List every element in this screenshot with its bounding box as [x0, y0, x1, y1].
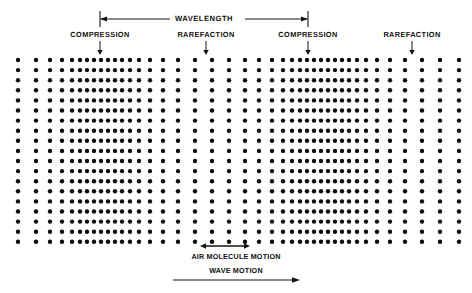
air-molecule-dot — [113, 199, 117, 203]
air-molecule-dot — [375, 129, 379, 133]
air-molecule-dot — [78, 139, 82, 143]
air-molecule-dot — [290, 230, 294, 234]
air-molecule-dot — [333, 179, 337, 183]
air-molecule-dot — [281, 88, 285, 92]
air-molecule-dot — [403, 78, 407, 82]
air-molecule-dot — [305, 219, 309, 223]
air-molecule-dot — [305, 169, 309, 173]
air-molecule-dot — [298, 199, 302, 203]
air-molecule-dot — [137, 78, 141, 82]
air-molecule-dot — [78, 230, 82, 234]
air-molecule-dot — [257, 179, 261, 183]
air-molecule-dot — [137, 129, 141, 133]
air-molecule-dot — [16, 230, 20, 234]
air-molecule-dot — [243, 149, 247, 153]
air-molecule-dot-field — [16, 58, 461, 244]
air-molecule-dot — [137, 159, 141, 163]
air-molecule-dot — [312, 129, 316, 133]
air-molecule-dot — [270, 149, 274, 153]
air-molecule-dot — [60, 58, 64, 62]
air-molecule-dot — [355, 98, 359, 102]
air-molecule-dot — [312, 199, 316, 203]
pointer-arrowhead-rarefaction-1 — [203, 50, 208, 55]
air-molecule-dot — [193, 129, 197, 133]
air-molecule-dot — [326, 240, 330, 244]
air-molecule-dot — [347, 230, 351, 234]
air-molecule-dot — [99, 179, 103, 183]
air-molecule-dot — [438, 240, 442, 244]
air-molecule-dot — [148, 118, 152, 122]
air-molecule-dot — [281, 179, 285, 183]
air-molecule-dot — [438, 199, 442, 203]
air-molecule-dot — [106, 230, 110, 234]
air-molecule-dot — [298, 219, 302, 223]
air-molecule-dot — [60, 118, 64, 122]
air-molecule-dot — [120, 58, 124, 62]
air-molecule-dot — [457, 118, 461, 122]
air-molecule-dot — [420, 199, 424, 203]
air-molecule-dot — [16, 199, 20, 203]
air-molecule-dot — [48, 88, 52, 92]
air-molecule-dot — [137, 88, 141, 92]
air-molecule-dot — [85, 68, 89, 72]
air-molecule-dot — [243, 129, 247, 133]
air-molecule-dot — [78, 240, 82, 244]
air-molecule-dot — [319, 139, 323, 143]
air-molecule-dot — [176, 98, 180, 102]
motion-label-air-molecule-motion: AIR MOLECULE MOTION — [191, 252, 280, 261]
air-molecule-dot — [438, 118, 442, 122]
air-molecule-dot — [137, 169, 141, 173]
air-molecule-dot — [347, 189, 351, 193]
air-molecule-dot — [193, 98, 197, 102]
air-molecule-dot — [193, 68, 197, 72]
air-molecule-dot — [403, 139, 407, 143]
air-molecule-dot — [78, 98, 82, 102]
air-molecule-dot — [388, 58, 392, 62]
air-molecule-dot — [403, 129, 407, 133]
air-molecule-dot — [270, 230, 274, 234]
air-molecule-dot — [193, 58, 197, 62]
wavelength-label: WAVELENGTH — [171, 14, 237, 23]
air-molecule-dot — [176, 108, 180, 112]
air-molecule-dot — [70, 240, 74, 244]
air-molecule-dot — [243, 169, 247, 173]
air-molecule-dot — [227, 189, 231, 193]
motion-arrows — [173, 243, 300, 283]
air-molecule-dot — [355, 68, 359, 72]
air-molecule-dot — [347, 169, 351, 173]
air-molecule-dot — [388, 98, 392, 102]
air-molecule-dot — [364, 189, 368, 193]
arrowhead-left-air-molecule-motion — [200, 243, 206, 249]
air-molecule-dot — [148, 58, 152, 62]
air-molecule-dot — [290, 189, 294, 193]
air-molecule-dot — [227, 78, 231, 82]
air-molecule-dot — [148, 108, 152, 112]
air-molecule-dot — [438, 139, 442, 143]
air-molecule-dot — [298, 78, 302, 82]
air-molecule-dot — [106, 139, 110, 143]
air-molecule-dot — [85, 219, 89, 223]
air-molecule-dot — [333, 240, 337, 244]
air-molecule-dot — [375, 209, 379, 213]
air-molecule-dot — [403, 108, 407, 112]
air-molecule-dot — [128, 189, 132, 193]
air-molecule-dot — [243, 78, 247, 82]
air-molecule-dot — [375, 78, 379, 82]
air-molecule-dot — [120, 169, 124, 173]
air-molecule-dot — [388, 129, 392, 133]
air-molecule-dot — [113, 169, 117, 173]
air-molecule-dot — [388, 169, 392, 173]
air-molecule-dot — [438, 88, 442, 92]
air-molecule-dot — [340, 189, 344, 193]
air-molecule-dot — [113, 108, 117, 112]
air-molecule-dot — [355, 169, 359, 173]
air-molecule-dot — [60, 139, 64, 143]
air-molecule-dot — [333, 108, 337, 112]
air-molecule-dot — [290, 118, 294, 122]
air-molecule-dot — [375, 98, 379, 102]
air-molecule-dot — [60, 129, 64, 133]
air-molecule-dot — [193, 149, 197, 153]
air-molecule-dot — [99, 240, 103, 244]
air-molecule-dot — [176, 118, 180, 122]
air-molecule-dot — [106, 58, 110, 62]
